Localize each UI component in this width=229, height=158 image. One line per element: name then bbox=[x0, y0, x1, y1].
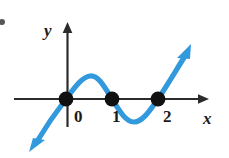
y-axis bbox=[63, 22, 73, 127]
root-point-0 bbox=[59, 92, 74, 107]
tick-label-0: 0 bbox=[74, 107, 83, 126]
y-axis-label: y bbox=[42, 21, 52, 40]
cubic-graph-canvas: y x 0 1 2 bbox=[0, 0, 229, 158]
y-axis-arrowhead bbox=[63, 22, 73, 33]
curve-arrowhead-lower-left bbox=[29, 138, 45, 152]
x-axis-arrowhead bbox=[198, 94, 209, 104]
root-point-2 bbox=[151, 92, 166, 107]
tick-label-2: 2 bbox=[163, 107, 172, 126]
curve-arrowhead-upper-right bbox=[177, 44, 191, 59]
edge-artifact-mark bbox=[0, 19, 5, 25]
graph-figure: y x 0 1 2 bbox=[0, 0, 229, 158]
tick-label-1: 1 bbox=[112, 107, 121, 126]
x-axis-label: x bbox=[202, 109, 212, 128]
root-point-1 bbox=[105, 92, 120, 107]
